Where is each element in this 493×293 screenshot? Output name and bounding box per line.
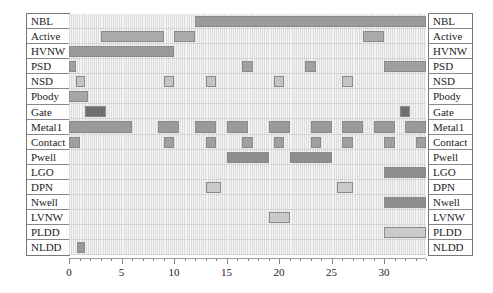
bar-nsd <box>274 76 285 87</box>
x-tick <box>311 259 312 261</box>
layer-label: NBL <box>429 14 472 29</box>
bar-active <box>174 31 195 42</box>
x-tick <box>290 259 291 261</box>
x-tick <box>101 259 102 261</box>
bar-nbl <box>195 16 426 27</box>
x-tick <box>90 259 91 261</box>
plot-area <box>69 14 426 255</box>
layer-label: Pwell <box>429 150 472 165</box>
x-tick-label: 30 <box>379 266 390 278</box>
x-tick <box>206 259 207 261</box>
bar-lvnw <box>269 212 290 223</box>
layer-label: PSD <box>429 59 472 74</box>
right-layer-labels: NBLActiveHVNWPSDNSDPbodyGateMetal1Contac… <box>428 13 473 256</box>
x-tick <box>69 259 70 264</box>
x-tick <box>426 259 427 261</box>
layer-label: Gate <box>429 105 472 120</box>
bar-nsd <box>164 76 175 87</box>
layer-label: PLDD <box>27 225 69 240</box>
bar-contact <box>342 137 353 148</box>
x-tick <box>332 259 333 264</box>
layer-label: Metal1 <box>429 120 472 135</box>
layer-label: HVNW <box>27 44 69 59</box>
layer-label: LGO <box>27 165 69 180</box>
layer-label: Pbody <box>27 89 69 104</box>
layer-label: Active <box>429 29 472 44</box>
x-tick <box>153 259 154 261</box>
layer-label: NSD <box>27 74 69 89</box>
x-tick <box>353 259 354 261</box>
layer-label: PSD <box>27 59 69 74</box>
x-tick-label: 25 <box>326 266 337 278</box>
bar-contact <box>274 137 285 148</box>
x-tick-label: 20 <box>274 266 285 278</box>
bar-nsd <box>206 76 217 87</box>
layer-label: PLDD <box>429 225 472 240</box>
layer-label: Pbody <box>429 89 472 104</box>
bar-psd <box>69 61 76 72</box>
layer-label: Gate <box>27 105 69 120</box>
bar-contact <box>242 137 253 148</box>
bar-metal1 <box>342 121 363 132</box>
bar-metal1 <box>269 121 290 132</box>
bar-pbody <box>69 91 88 102</box>
bar-pwell <box>227 152 269 163</box>
x-tick <box>416 259 417 261</box>
x-tick <box>363 259 364 261</box>
layer-label: LVNW <box>429 210 472 225</box>
x-tick <box>122 259 123 264</box>
x-tick <box>269 259 270 261</box>
x-tick <box>342 259 343 261</box>
layer-label: DPN <box>27 180 69 195</box>
x-tick <box>374 259 375 261</box>
bar-contact <box>164 137 175 148</box>
layer-label: LGO <box>429 165 472 180</box>
layer-label: NLDD <box>429 240 472 254</box>
bar-pldd <box>384 227 426 238</box>
x-tick <box>143 259 144 261</box>
x-tick <box>237 259 238 261</box>
bar-metal1 <box>158 121 179 132</box>
x-tick-label: 5 <box>119 266 125 278</box>
bar-nwell <box>384 197 426 208</box>
x-tick <box>405 259 406 261</box>
layer-label: NLDD <box>27 240 69 254</box>
layer-label: Nwell <box>27 195 69 210</box>
layer-label: DPN <box>429 180 472 195</box>
bar-nldd <box>77 242 84 253</box>
x-tick <box>300 259 301 261</box>
x-tick <box>132 259 133 261</box>
x-tick-label: 10 <box>169 266 180 278</box>
bar-contact <box>384 137 395 148</box>
bar-metal1 <box>227 121 248 132</box>
x-tick <box>321 259 322 261</box>
x-tick <box>174 259 175 264</box>
x-tick <box>384 259 385 264</box>
x-tick <box>395 259 396 261</box>
bar-dpn <box>337 182 353 193</box>
x-tick <box>195 259 196 261</box>
x-axis <box>69 258 426 265</box>
left-layer-labels: NBLActiveHVNWPSDNSDPbodyGateMetal1Contac… <box>26 13 70 256</box>
x-tick <box>279 259 280 264</box>
x-tick-label: 0 <box>66 266 72 278</box>
x-tick <box>80 259 81 261</box>
layer-label: NSD <box>429 74 472 89</box>
layer-label: Contact <box>27 135 69 150</box>
bar-nsd <box>76 76 84 87</box>
bar-contact <box>311 137 322 148</box>
bar-psd <box>242 61 253 72</box>
bar-metal1 <box>195 121 216 132</box>
layer-label: Pwell <box>27 150 69 165</box>
bar-active <box>363 31 384 42</box>
bar-metal1 <box>69 121 132 132</box>
layer-label: NBL <box>27 14 69 29</box>
x-tick <box>164 259 165 261</box>
bar-lgo <box>384 167 426 178</box>
bar-contact <box>416 137 427 148</box>
layer-label: Metal1 <box>27 120 69 135</box>
bar-active <box>101 31 164 42</box>
bar-gate <box>85 106 106 117</box>
bar-hvnw <box>69 46 174 57</box>
x-tick <box>111 259 112 261</box>
